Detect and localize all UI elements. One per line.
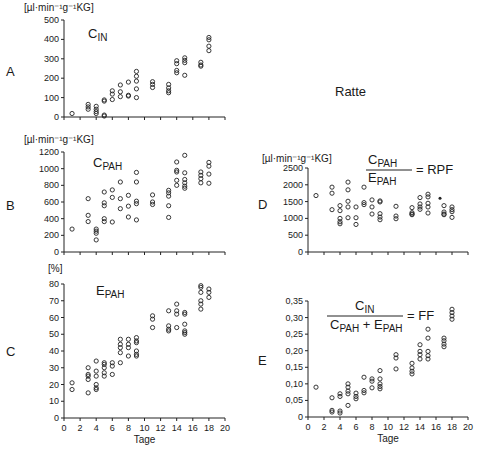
data-point bbox=[134, 180, 138, 184]
data-point bbox=[118, 83, 122, 87]
panel-title-denominator: EPAH bbox=[368, 170, 397, 187]
panel-d: 05001000150020002500D[µl·min⁻¹g⁻¹KG]CPAH… bbox=[258, 152, 468, 257]
x-tick-label: 2 bbox=[78, 423, 83, 433]
data-point bbox=[330, 185, 334, 189]
y-tick-label: 300 bbox=[44, 54, 59, 64]
data-point bbox=[134, 74, 138, 78]
data-point bbox=[410, 372, 414, 376]
data-point bbox=[70, 111, 74, 115]
data-point bbox=[70, 227, 74, 231]
panel-letter: B bbox=[6, 198, 15, 213]
x-tick-label: 16 bbox=[431, 422, 441, 432]
data-point bbox=[346, 180, 350, 184]
y-tick-label: 200 bbox=[44, 230, 59, 240]
panel-title-numerator: CIN bbox=[355, 298, 374, 315]
y-tick-label: 1500 bbox=[283, 197, 303, 207]
data-point bbox=[426, 349, 430, 353]
y-tick-label: 200 bbox=[44, 73, 59, 83]
data-point bbox=[354, 205, 358, 209]
data-point bbox=[134, 218, 138, 222]
panel-title: EPAH bbox=[96, 283, 125, 300]
data-points bbox=[70, 153, 211, 242]
y-tick-label: 0,15 bbox=[285, 362, 303, 372]
data-point bbox=[110, 97, 114, 101]
data-point bbox=[175, 62, 179, 66]
data-point bbox=[126, 193, 130, 197]
data-point bbox=[362, 375, 366, 379]
data-point bbox=[346, 199, 350, 203]
x-tick-label: 0 bbox=[305, 422, 310, 432]
data-point bbox=[94, 374, 98, 378]
data-point bbox=[150, 193, 154, 197]
data-point bbox=[442, 204, 446, 208]
data-point bbox=[110, 195, 114, 199]
panel-a: 0100200300400500A[µl·min⁻¹g⁻¹KG]CIN bbox=[6, 2, 225, 122]
panel-title-denominator: CPAH + EPAH bbox=[330, 317, 403, 334]
data-point bbox=[118, 351, 122, 355]
data-point bbox=[378, 377, 382, 381]
data-point bbox=[199, 290, 203, 294]
data-point bbox=[370, 205, 374, 209]
data-point bbox=[167, 215, 171, 219]
data-point bbox=[207, 295, 211, 299]
data-point bbox=[354, 216, 358, 220]
data-point bbox=[354, 222, 358, 226]
y-unit-label: [µl·min⁻¹g⁻¹KG] bbox=[24, 2, 94, 13]
data-point bbox=[86, 213, 90, 217]
y-tick-label: 60 bbox=[49, 313, 59, 323]
data-point bbox=[175, 178, 179, 182]
data-point bbox=[418, 195, 422, 199]
data-point bbox=[394, 217, 398, 221]
data-point bbox=[134, 96, 138, 100]
data-point bbox=[330, 396, 334, 400]
y-tick-label: 2500 bbox=[283, 163, 303, 173]
data-point bbox=[175, 183, 179, 187]
data-point bbox=[175, 160, 179, 164]
panel-title-numerator: CPAH bbox=[368, 152, 397, 169]
panel-letter: A bbox=[6, 64, 15, 79]
data-point bbox=[134, 79, 138, 83]
data-points bbox=[70, 35, 211, 118]
data-point bbox=[338, 204, 342, 208]
data-point bbox=[370, 198, 374, 202]
x-tick-label: 14 bbox=[415, 422, 425, 432]
marked-point bbox=[439, 197, 442, 200]
data-point bbox=[110, 220, 114, 224]
data-point bbox=[167, 309, 171, 313]
y-tick-label: 0 bbox=[54, 247, 59, 257]
data-point bbox=[126, 337, 130, 341]
data-point bbox=[150, 325, 154, 329]
data-point bbox=[370, 386, 374, 390]
data-point bbox=[378, 369, 382, 373]
y-tick-label: 70 bbox=[49, 296, 59, 306]
data-point bbox=[94, 359, 98, 363]
data-point bbox=[338, 209, 342, 213]
x-tick-label: 18 bbox=[447, 422, 457, 432]
data-point bbox=[314, 385, 318, 389]
data-point bbox=[410, 361, 414, 365]
data-point bbox=[394, 367, 398, 371]
x-tick-label: 16 bbox=[188, 423, 198, 433]
x-axis-label: Tage bbox=[377, 433, 399, 444]
data-point bbox=[346, 392, 350, 396]
data-point bbox=[118, 90, 122, 94]
data-point bbox=[126, 204, 130, 208]
panel-title: CPAH bbox=[93, 155, 122, 172]
x-tick-label: 18 bbox=[204, 423, 214, 433]
data-point bbox=[118, 180, 122, 184]
y-tick-label: 80 bbox=[49, 279, 59, 289]
data-point bbox=[126, 354, 130, 358]
data-point bbox=[175, 302, 179, 306]
y-tick-label: 600 bbox=[44, 197, 59, 207]
panel-b: 020040060080010001200B[µl·min⁻¹g⁻¹KG]CPA… bbox=[6, 134, 225, 257]
data-point bbox=[450, 215, 454, 219]
data-point bbox=[207, 181, 211, 185]
data-point bbox=[207, 172, 211, 176]
data-point bbox=[126, 215, 130, 219]
y-tick-label: 1000 bbox=[39, 164, 59, 174]
data-point bbox=[134, 87, 138, 91]
y-tick-label: 800 bbox=[44, 180, 59, 190]
y-tick-label: 20 bbox=[49, 380, 59, 390]
data-point bbox=[86, 197, 90, 201]
data-point bbox=[183, 73, 187, 77]
